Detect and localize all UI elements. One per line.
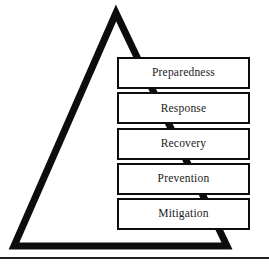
baseline-divider	[0, 257, 269, 259]
phase-box-recovery[interactable]: Recovery	[117, 128, 250, 160]
phase-label-recovery: Recovery	[161, 138, 207, 150]
phase-label-mitigation: Mitigation	[158, 208, 209, 220]
phase-box-mitigation[interactable]: Mitigation	[117, 198, 250, 230]
phase-box-prevention[interactable]: Prevention	[117, 163, 250, 195]
phase-label-preparedness: Preparedness	[152, 67, 215, 79]
phase-box-response[interactable]: Response	[117, 92, 250, 124]
figure-canvas: Preparedness Response Recovery Preventio…	[0, 0, 269, 270]
phase-label-response: Response	[161, 103, 207, 115]
phase-box-preparedness[interactable]: Preparedness	[117, 57, 250, 89]
phase-stack: Preparedness Response Recovery Preventio…	[117, 57, 250, 230]
phase-label-prevention: Prevention	[158, 173, 210, 185]
